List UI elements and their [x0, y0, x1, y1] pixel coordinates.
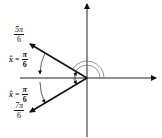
- label-ref-angle-upper: x̂ = π 6: [9, 51, 28, 69]
- ray-5pi-6: [30, 44, 87, 78]
- label-7pi-6: 7π 6: [14, 102, 24, 120]
- ray-7pi-6: [30, 78, 87, 112]
- ref-arc-large-upper: [40, 53, 45, 74]
- label-5pi-6: 5π 6: [14, 26, 24, 44]
- diagram-graphic: [0, 0, 162, 138]
- angle-diagram: 5π 6 x̂ = π 6 x̂ = π 6 7π 6: [0, 0, 162, 138]
- ref-arc-large-lower: [40, 82, 45, 103]
